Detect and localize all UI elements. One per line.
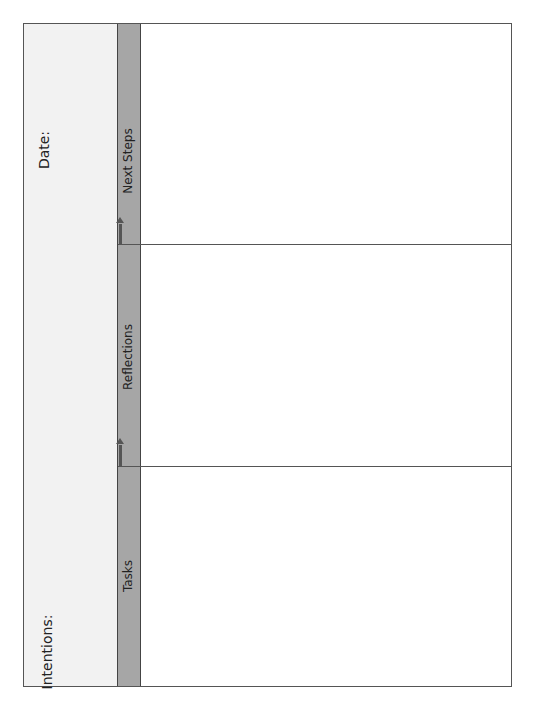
section-label-next-steps: Next Steps — [121, 121, 135, 201]
section-label-reflections: Reflections — [121, 317, 135, 397]
tasks-area[interactable] — [141, 467, 511, 686]
intentions-field[interactable] — [44, 254, 114, 674]
reflection-worksheet: Date: Intentions: Next Steps Reflections… — [23, 23, 512, 687]
date-field[interactable] — [44, 24, 114, 244]
next-steps-area[interactable] — [141, 24, 511, 244]
left-panel: Date: Intentions: — [24, 24, 118, 686]
section-label-tasks: Tasks — [121, 536, 135, 616]
reflections-area[interactable] — [141, 245, 511, 466]
section-label-strip: Next Steps Reflections Tasks — [118, 24, 141, 686]
